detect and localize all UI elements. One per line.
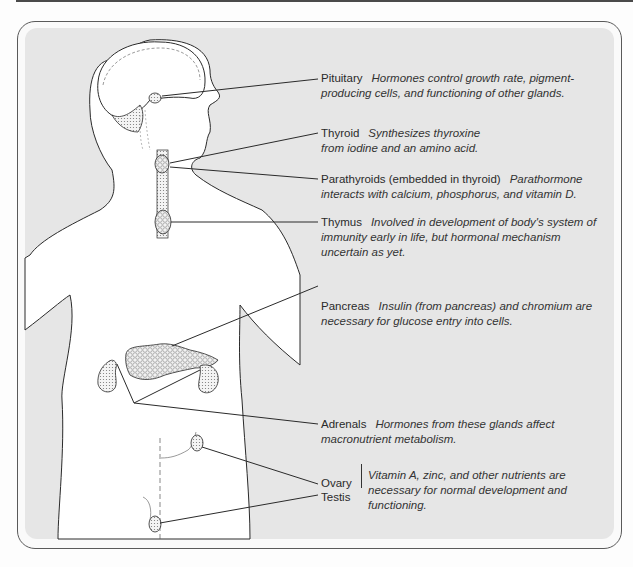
gland-description: Hormones control growth rate, pigment-	[372, 72, 575, 84]
gland-description: Involved in development of body's system…	[371, 216, 596, 228]
thyroid-gland	[155, 155, 169, 173]
gland-name-ovary: Ovary	[321, 477, 352, 489]
body-silhouette	[25, 40, 300, 539]
gland-description: Vitamin A, zinc, and other nutrients are	[368, 469, 566, 481]
gland-description: macronutrient metabolism.	[321, 433, 457, 445]
gland-description: necessary for normal development and	[368, 484, 567, 496]
label-thyroid: ThyroidSynthesizes thyroxine from iodine…	[321, 126, 480, 156]
gland-name: Thymus	[321, 216, 362, 228]
gland-description: interacts with calcium, phosphorus, and …	[321, 188, 577, 200]
label-adrenals: AdrenalsHormones from these glands affec…	[321, 417, 554, 447]
gland-name: Adrenals	[321, 418, 366, 430]
gland-description: Parathormone	[510, 173, 583, 185]
gland-name: Thyroid	[321, 127, 359, 139]
gland-description: Insulin (from pancreas) and chromium are	[379, 300, 592, 312]
gland-description: Synthesizes thyroxine	[368, 127, 480, 139]
label-pituitary: PituitaryHormones control growth rate, p…	[321, 71, 574, 101]
gland-name: Pituitary	[321, 72, 363, 84]
gland-description: Hormones from these glands affect	[375, 418, 554, 430]
gland-description: uncertain as yet.	[321, 246, 405, 258]
label-gonad-names: Ovary Testis	[321, 476, 352, 504]
label-gonads-description: Vitamin A, zinc, and other nutrients are…	[368, 468, 567, 513]
gland-description: immunity early in life, but hormonal mec…	[321, 231, 561, 243]
testis-gland	[149, 516, 161, 532]
gland-description: necessary for glucose entry into cells.	[321, 315, 513, 327]
gland-description: functioning.	[368, 499, 427, 511]
gland-name-testis: Testis	[321, 491, 350, 503]
bracket-divider	[361, 464, 366, 488]
thymus-gland	[155, 210, 171, 234]
gland-name: Parathyroids (embedded in thyroid)	[321, 173, 501, 185]
label-thymus: ThymusInvolved in development of body's …	[321, 215, 596, 260]
gland-description: producing cells, and functioning of othe…	[321, 87, 565, 99]
gland-description: from iodine and an amino acid.	[321, 142, 478, 154]
label-pancreas: PancreasInsulin (from pancreas) and chro…	[321, 299, 592, 329]
gland-name: Pancreas	[321, 300, 370, 312]
ovary-gland	[191, 435, 203, 451]
pituitary-gland	[149, 93, 161, 103]
label-parathyroids: Parathyroids (embedded in thyroid)Parath…	[321, 172, 583, 202]
